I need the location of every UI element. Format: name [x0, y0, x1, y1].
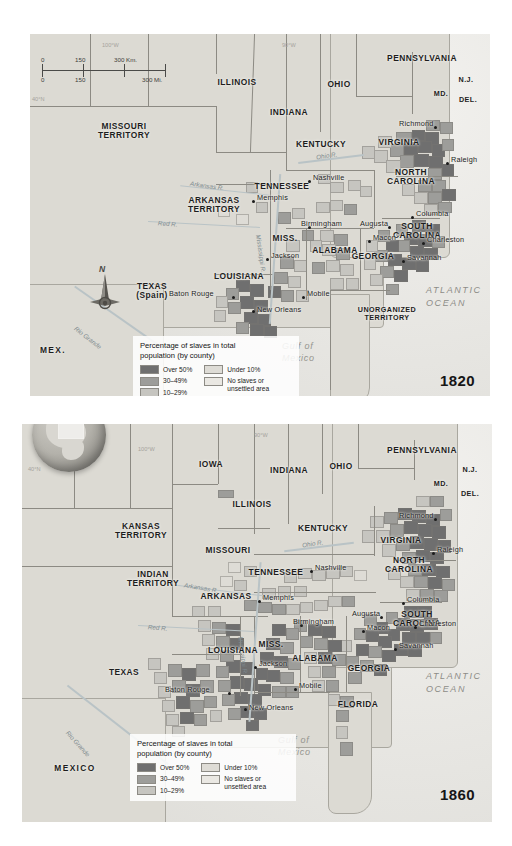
city-label-birmingham-1820: Birmingham: [301, 220, 342, 228]
state-label-indiana-1860: INDIANA: [262, 466, 316, 475]
state-label-arkansas-territory-1820: ARKANSAS TERRITORY: [178, 196, 250, 214]
legend-item-none-1820: No slaves or unsettled area: [204, 377, 269, 393]
state-label-newjersey-1820: N.J.: [452, 76, 480, 84]
legend-column-left-1860: Over 50% 30–49% 10–29%: [137, 763, 189, 795]
legend-label-under10-1820: Under 10%: [227, 365, 260, 373]
legend-title-1860: Percentage of slaves in total population…: [137, 739, 289, 759]
legend-label-over50-1820: Over 50%: [163, 365, 192, 373]
legend-swatch-10-29-1860: [137, 786, 156, 795]
legend-item-10-29-1820: 10–29%: [140, 388, 192, 396]
state-label-indian-territory-1860: INDIAN TERRITORY: [118, 570, 188, 588]
state-label-virginia-1820: VIRGINIA: [370, 138, 428, 147]
state-label-delaware-1860: DEL.: [456, 490, 484, 498]
city-label-memphis-1860: Memphis: [263, 594, 294, 602]
legend-swatch-10-29-1820: [140, 388, 159, 396]
state-label-pennsylvania-1860: PENNSYLVANIA: [380, 446, 464, 455]
city-label-columbia-1820: Columbia: [416, 210, 448, 218]
state-label-pennsylvania-1820: PENNSYLVANIA: [380, 54, 464, 63]
legend-item-none-1860: No slaves or unsettled area: [201, 775, 266, 791]
legend-swatch-over50-1820: [140, 365, 159, 374]
gridline-label-100w-1820: 100°W: [102, 42, 119, 48]
legend-label-none-1820: No slaves or unsettled area: [227, 377, 269, 393]
city-label-neworleans-1820: New Orleans: [257, 306, 301, 314]
city-label-raleigh-1860: Raleigh: [437, 546, 463, 554]
gridline-label-40n-1860: 40°N: [28, 466, 41, 472]
map-panel-1860: Ohio R. Mississippi R. Arkansas R. Red R…: [22, 424, 492, 822]
scale-mi-150: 150: [75, 76, 85, 83]
compass-north-label-1820: N: [99, 264, 105, 274]
scale-bar-1820: 0 150 300 Km. 0 150 300 Mi.: [42, 56, 172, 88]
legend-item-under10-1820: Under 10%: [204, 365, 269, 374]
state-label-alabama-1860: ALABAMA: [286, 654, 344, 663]
city-label-batonrouge-1820: Baton Rouge: [169, 290, 214, 298]
state-label-illinois-1820: ILLINOIS: [208, 78, 266, 87]
state-label-kentucky-1860: KENTUCKY: [294, 524, 352, 533]
city-label-nashville-1820: Nashville: [313, 174, 344, 182]
water-label-atlantic-1860: ATLANTIC OCEAN: [426, 670, 492, 696]
city-label-richmond-1860: Richmond: [399, 512, 433, 520]
scale-km-0: 0: [41, 56, 44, 63]
legend-1820: Percentage of slaves in total population…: [133, 336, 299, 396]
city-label-charleston-1860: Charleston: [419, 620, 456, 628]
state-label-illinois-1860: ILLINOIS: [224, 500, 280, 509]
state-label-iowa-1860: IOWA: [190, 460, 232, 469]
scale-km-300: 300 Km.: [114, 56, 137, 63]
legend-swatch-none-1860: [201, 775, 220, 784]
city-label-augusta-1820: Augusta: [360, 220, 388, 228]
legend-label-under10-1860: Under 10%: [224, 763, 257, 771]
city-label-batonrouge-1860: Baton Rouge: [165, 686, 210, 694]
gridline-label-100w-1860: 100°W: [138, 446, 155, 452]
legend-item-under10-1860: Under 10%: [201, 763, 266, 772]
city-label-charleston-1820: Charleston: [427, 236, 464, 244]
city-label-savannah-1820: Savannah: [407, 254, 441, 262]
state-label-ohio-1820: OHIO: [318, 80, 360, 89]
legend-column-left-1820: Over 50% 30–49% 10–29%: [140, 365, 192, 396]
state-label-kentucky-1820: KENTUCKY: [292, 140, 350, 149]
legend-item-over50-1860: Over 50%: [137, 763, 189, 772]
legend-swatch-none-1820: [204, 377, 223, 386]
legend-label-over50-1860: Over 50%: [160, 763, 189, 771]
state-label-mexico-1820: MEX.: [36, 346, 70, 355]
year-label-1820: 1820: [440, 372, 475, 389]
state-label-louisiana-1820: LOUISIANA: [206, 272, 272, 281]
state-label-ohio-1860: OHIO: [320, 462, 362, 471]
city-label-mobile-1860: Mobile: [299, 682, 322, 690]
gridline-label-90w-1860: 90°W: [254, 432, 268, 438]
state-label-texas-1860: TEXAS: [96, 668, 152, 677]
state-label-missouri-territory-1820: MISSOURI TERRITORY: [88, 122, 160, 140]
state-label-arkansas-1860: ARKANSAS: [194, 592, 258, 601]
scale-mi-0: 0: [41, 76, 44, 83]
state-label-newjersey-1860: N.J.: [456, 466, 484, 474]
state-label-north-carolina-1860: NORTH CAROLINA: [378, 556, 440, 574]
state-label-north-carolina-1820: NORTH CAROLINA: [380, 168, 442, 186]
state-label-georgia-1860: GEORGIA: [342, 664, 396, 673]
legend-label-none-1860: No slaves or unsettled area: [224, 775, 266, 791]
state-label-mississippi-1820: MISS.: [266, 234, 304, 243]
state-label-maryland-1820: MD.: [428, 90, 454, 98]
legend-1860: Percentage of slaves in total population…: [130, 734, 296, 801]
legend-swatch-30-49-1860: [137, 775, 156, 784]
state-label-tennessee-1860: TENNESSEE: [242, 568, 310, 577]
legend-label-10-29-1860: 10–29%: [160, 786, 184, 794]
legend-swatch-30-49-1820: [140, 377, 159, 386]
state-label-unorganized-territory-1820: UNORGANIZED TERRITORY: [346, 306, 428, 321]
state-label-mexico-1860: MEXICO: [48, 764, 102, 773]
state-label-maryland-1860: MD.: [428, 480, 454, 488]
city-label-richmond-1820: Richmond: [399, 120, 433, 128]
legend-item-over50-1820: Over 50%: [140, 365, 192, 374]
city-label-jackson-1860: Jackson: [259, 660, 287, 668]
city-label-neworleans-1860: New Orleans: [249, 704, 293, 712]
legend-swatch-over50-1860: [137, 763, 156, 772]
legend-title-1820: Percentage of slaves in total population…: [140, 341, 292, 361]
state-label-delaware-1820: DEL.: [454, 96, 482, 104]
year-label-1860: 1860: [440, 786, 475, 803]
legend-column-right-1860: Under 10% No slaves or unsettled area: [201, 763, 266, 795]
city-label-macon-1820: Macon: [373, 234, 396, 242]
legend-item-30-49-1820: 30–49%: [140, 377, 192, 386]
legend-swatch-under10-1820: [204, 365, 223, 374]
city-label-birmingham-1860: Birmingham: [293, 618, 334, 626]
legend-column-right-1820: Under 10% No slaves or unsettled area: [204, 365, 269, 396]
legend-item-10-29-1860: 10–29%: [137, 786, 189, 795]
scale-km-150: 150: [75, 56, 85, 63]
river-label-red-1820: Red R.: [158, 219, 178, 227]
